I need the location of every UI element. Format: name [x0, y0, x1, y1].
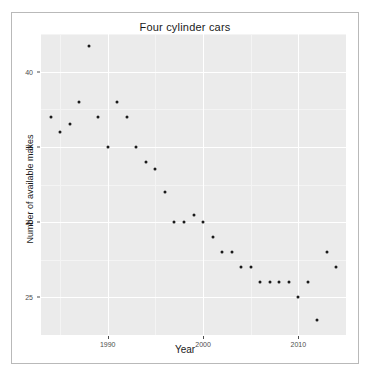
x-axis-label: Year [12, 344, 358, 355]
y-axis-tick-mark [37, 297, 40, 298]
plot-figure: Four cylinder cars 25303540199020002010 … [11, 12, 359, 364]
gridline-minor-horizontal [41, 185, 346, 186]
data-point [325, 251, 328, 254]
data-point [306, 281, 309, 284]
data-point [335, 266, 338, 269]
gridline-minor-vertical [60, 34, 61, 335]
data-point [116, 100, 119, 103]
data-point [135, 145, 138, 148]
x-axis-tick-mark [203, 336, 204, 339]
y-axis-tick-mark [37, 71, 40, 72]
data-point [59, 130, 62, 133]
data-point [87, 45, 90, 48]
data-point [144, 160, 147, 163]
gridline-minor-vertical [251, 34, 252, 335]
y-axis-tick-mark [37, 146, 40, 147]
gridline-major-horizontal [41, 72, 346, 73]
gridline-major-vertical [298, 34, 299, 335]
gridline-major-vertical [108, 34, 109, 335]
data-point [78, 100, 81, 103]
data-point [211, 236, 214, 239]
page-title: Four cylinder cars [12, 21, 358, 33]
data-point [49, 115, 52, 118]
data-point [154, 168, 157, 171]
data-point [259, 281, 262, 284]
data-point [163, 191, 166, 194]
gridline-major-horizontal [41, 297, 346, 298]
data-point [316, 318, 319, 321]
gridline-major-horizontal [41, 147, 346, 148]
data-point [221, 251, 224, 254]
gridline-minor-horizontal [41, 260, 346, 261]
data-point [106, 145, 109, 148]
y-axis-tick-label: 40 [25, 68, 33, 75]
x-axis-tick-mark [298, 336, 299, 339]
gridline-minor-horizontal [41, 34, 346, 35]
y-axis-tick-mark [37, 222, 40, 223]
data-point [97, 115, 100, 118]
data-point [240, 266, 243, 269]
data-point [249, 266, 252, 269]
data-point [182, 221, 185, 224]
data-point [125, 115, 128, 118]
x-axis-tick-mark [108, 336, 109, 339]
data-point [173, 221, 176, 224]
gridline-major-vertical [203, 34, 204, 335]
gridline-minor-horizontal [41, 109, 346, 110]
data-point [230, 251, 233, 254]
data-point [192, 213, 195, 216]
gridline-minor-vertical [155, 34, 156, 335]
gridline-major-horizontal [41, 222, 346, 223]
data-point [287, 281, 290, 284]
data-point [68, 123, 71, 126]
plot-panel [41, 34, 346, 335]
data-point [297, 296, 300, 299]
data-point [268, 281, 271, 284]
data-point [278, 281, 281, 284]
y-axis-label: Number of available makes [25, 79, 35, 299]
data-point [202, 221, 205, 224]
